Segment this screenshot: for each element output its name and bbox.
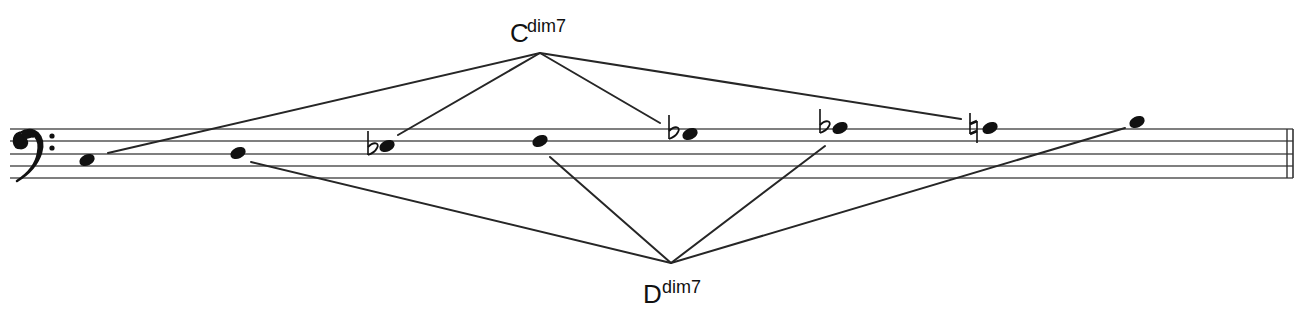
staff <box>10 129 1293 178</box>
flat-icon <box>368 131 378 155</box>
note-a3 <box>980 120 999 137</box>
note-gb3 <box>680 126 699 143</box>
chord-root: C <box>510 18 529 48</box>
connector-ddim7-b <box>671 128 1125 263</box>
connector-ddim7-f <box>550 157 671 263</box>
notes <box>77 109 1146 168</box>
chord-quality: dim7 <box>662 277 701 297</box>
music-diagram: C dim7 D dim7 <box>0 0 1315 325</box>
chord-root: D <box>643 279 662 309</box>
note-d3 <box>228 145 247 162</box>
connector-ddim7-d <box>251 162 671 263</box>
note-eb3 <box>377 138 396 155</box>
connector-ddim7-ab <box>671 146 825 263</box>
flat-icon <box>669 115 679 139</box>
chord-label-ddim7: D dim7 <box>643 277 701 309</box>
chord-label-cdim7: C dim7 <box>510 16 566 48</box>
connector-cdim7-a <box>540 53 961 119</box>
natural-icon <box>970 113 977 143</box>
connector-cdim7-gb <box>540 53 660 123</box>
chord-quality: dim7 <box>527 16 566 36</box>
cdim7-connectors <box>108 53 961 153</box>
bass-clef-icon <box>14 130 55 181</box>
note-b3 <box>1127 114 1146 131</box>
connector-cdim7-eb <box>398 53 540 135</box>
note-f3 <box>530 133 549 150</box>
note-ab3 <box>830 120 849 137</box>
connector-cdim7-c <box>108 53 540 153</box>
